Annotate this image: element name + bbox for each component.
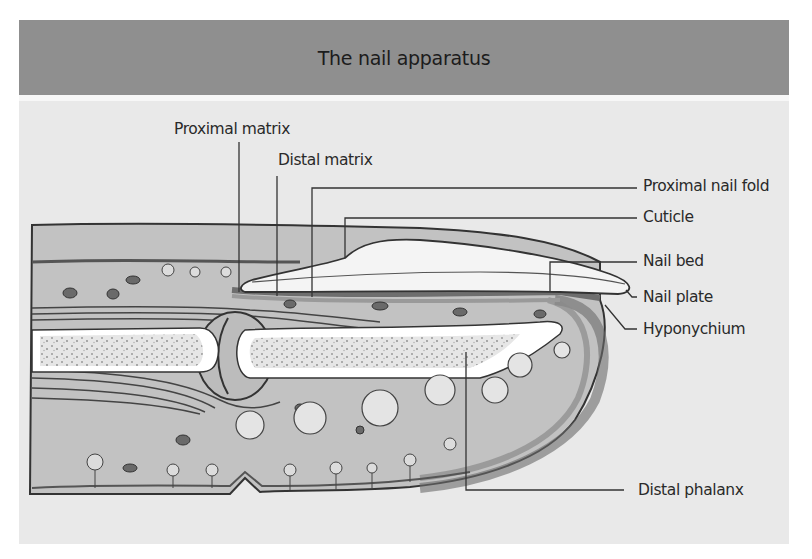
- label-nail-plate: Nail plate: [643, 288, 713, 306]
- label-nail-bed: Nail bed: [643, 252, 704, 270]
- label-distal-phalanx: Distal phalanx: [638, 481, 744, 499]
- label-cuticle: Cuticle: [643, 208, 694, 226]
- label-hyponychium: Hyponychium: [643, 320, 745, 338]
- label-proximal-nail-fold: Proximal nail fold: [643, 177, 769, 195]
- label-distal-matrix: Distal matrix: [278, 151, 372, 169]
- nail-cross-section-illustration: [0, 0, 812, 559]
- label-proximal-matrix: Proximal matrix: [174, 120, 290, 138]
